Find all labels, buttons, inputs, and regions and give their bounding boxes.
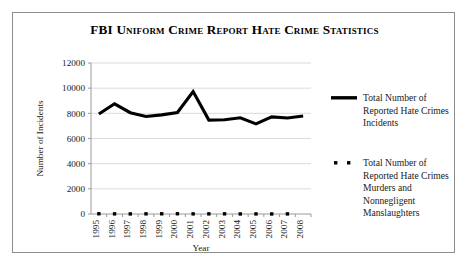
y-axis-tick-label: 2000 xyxy=(67,184,86,194)
x-axis-tick-label: 2004 xyxy=(232,220,242,239)
series-dot-murders xyxy=(254,212,257,215)
legend-label: Murders and xyxy=(363,182,412,193)
legend-label: Manslaughters xyxy=(363,207,420,218)
y-axis-title: Number of Incidents xyxy=(35,100,45,176)
x-axis-tick-label: 1999 xyxy=(154,220,164,239)
y-axis-tick-label: 0 xyxy=(80,209,85,219)
y-axis-tick-label: 8000 xyxy=(67,109,86,119)
series-line-incidents xyxy=(99,92,303,124)
data-series xyxy=(97,92,303,216)
x-axis-tick-label: 2008 xyxy=(295,220,305,239)
legend-label: Nonnegligent xyxy=(363,195,416,206)
x-axis-tick-label: 1996 xyxy=(107,220,117,239)
legend-swatch-dot xyxy=(347,161,350,164)
y-axis-tick-label: 4000 xyxy=(67,159,86,169)
y-axis-tick-label: 6000 xyxy=(67,134,86,144)
series-dot-murders xyxy=(129,212,132,215)
x-axis-tick-label: 2006 xyxy=(264,220,274,239)
series-dot-murders xyxy=(160,212,163,215)
series-dot-murders xyxy=(223,212,226,215)
legend-label: Incidents xyxy=(363,117,398,128)
y-axis-tick-labels: 020004000600080001000012000 xyxy=(62,58,85,219)
x-axis-tick-label: 1995 xyxy=(91,220,101,239)
x-axis-tick-label: 2007 xyxy=(279,220,289,239)
legend-swatch-dot xyxy=(334,161,337,164)
x-axis-tick-label: 2001 xyxy=(185,220,195,239)
series-dot-murders xyxy=(176,212,179,215)
series-dot-murders xyxy=(270,212,273,215)
y-axis-tick-label: 10000 xyxy=(62,83,85,93)
chart-frame: FBI Uniform Crime Report Hate Crime Stat… xyxy=(12,12,455,253)
legend-label: Reported Hate Crimes xyxy=(363,105,449,116)
x-axis-tick-labels: 1995199619971998199920002001200220032004… xyxy=(91,220,305,239)
x-axis-tick-label: 1998 xyxy=(138,220,148,239)
chart-legend: Total Number ofReported Hate CrimesIncid… xyxy=(331,92,449,218)
series-dot-murders xyxy=(207,212,210,215)
plot-area: 020004000600080001000012000 199519961997… xyxy=(13,13,456,254)
chart-figure: FBI Uniform Crime Report Hate Crime Stat… xyxy=(0,0,465,275)
x-axis-tick-label: 1997 xyxy=(122,220,132,239)
series-dot-murders xyxy=(286,212,289,215)
y-axis-tick-label: 12000 xyxy=(62,58,85,68)
gridlines xyxy=(91,63,311,189)
x-axis-tick-label: 2005 xyxy=(248,220,258,239)
x-axis-title: Year xyxy=(193,243,210,253)
legend-label: Total Number of xyxy=(363,157,428,168)
series-dot-murders xyxy=(191,212,194,215)
axes xyxy=(88,63,311,217)
series-dot-murders xyxy=(239,212,242,215)
series-dot-murders xyxy=(113,212,116,215)
legend-label: Total Number of xyxy=(363,92,428,103)
x-axis-tick-label: 2003 xyxy=(217,220,227,239)
series-dot-murders xyxy=(144,212,147,215)
x-axis-tick-label: 2002 xyxy=(201,220,211,239)
legend-label: Reported Hate Crimes xyxy=(363,170,449,181)
x-axis-tick-label: 2000 xyxy=(169,220,179,239)
series-dot-murders xyxy=(97,212,100,215)
